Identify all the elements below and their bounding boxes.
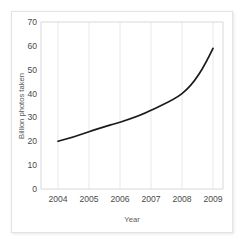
x-tick-2004: 2004	[48, 194, 67, 204]
y-tick-70: 70	[27, 17, 37, 27]
x-tick-2006: 2006	[110, 194, 129, 204]
y-tick-10: 10	[27, 160, 37, 170]
y-tick-20: 20	[27, 136, 37, 146]
x-tick-2009: 2009	[203, 194, 222, 204]
y-axis-title: Billion photos taken	[17, 73, 26, 139]
y-tick-30: 30	[27, 112, 37, 122]
y-tick-0: 0	[32, 184, 37, 194]
x-tick-2005: 2005	[79, 194, 98, 204]
chart-screenshot: 0 10 20 30 40 50 60 70 2004 2005 2006 20…	[0, 0, 246, 245]
line-chart: 0 10 20 30 40 50 60 70 2004 2005 2006 20…	[12, 12, 232, 232]
y-tick-50: 50	[27, 65, 37, 75]
x-tick-2008: 2008	[172, 194, 191, 204]
y-tick-60: 60	[27, 41, 37, 51]
plot-background	[41, 22, 223, 189]
chart-card: 0 10 20 30 40 50 60 70 2004 2005 2006 20…	[11, 11, 233, 233]
y-tick-40: 40	[27, 89, 37, 99]
x-axis-title: Year	[124, 215, 140, 224]
x-tick-2007: 2007	[141, 194, 160, 204]
